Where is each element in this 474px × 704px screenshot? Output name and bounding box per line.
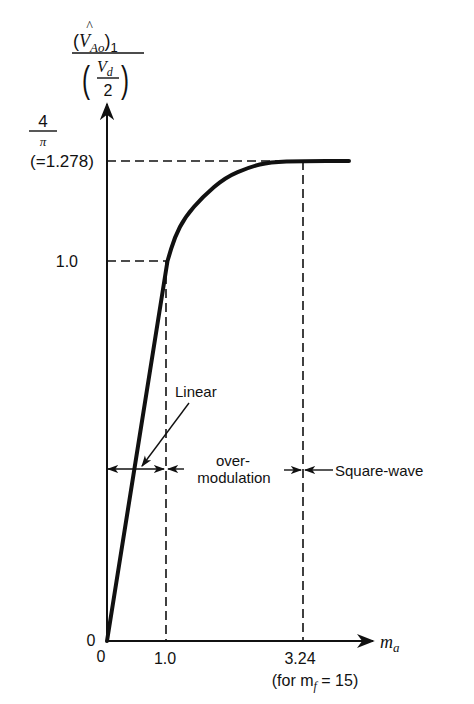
square-wave-region-label: Square-wave xyxy=(335,462,423,479)
x-tick-square-wave: 3.24 xyxy=(284,650,315,667)
x-axis-label: ma xyxy=(380,632,400,655)
pi-label: π xyxy=(40,134,47,149)
y-tick-zero: 0 xyxy=(87,632,96,649)
y-axis-label: ^ (VAo)1 ( Vd 2 ) xyxy=(72,19,144,100)
x-tick-zero: 0 xyxy=(97,648,106,665)
modulation-ratio-chart: ^ (VAo)1 ( Vd 2 ) 4 π (=1.278) 1.0 0 0 1… xyxy=(0,0,474,704)
linear-region-label: Linear xyxy=(175,383,217,400)
overmodulation-label-line2: modulation xyxy=(197,469,270,486)
overmodulation-label-line1: over- xyxy=(216,452,250,469)
denominator-divisor: 2 xyxy=(104,82,113,99)
fundamental-amplitude-curve xyxy=(107,161,349,641)
y-tick-saturation: 4 π (=1.278) xyxy=(29,112,94,171)
linear-pointer-arrow xyxy=(142,403,189,466)
four-label: 4 xyxy=(38,112,47,131)
y-tick-one: 1.0 xyxy=(56,253,78,270)
saturation-value-label: (=1.278) xyxy=(30,152,94,171)
x-tick-one: 1.0 xyxy=(154,650,176,667)
denominator-open-paren: ( xyxy=(82,59,90,101)
y-label-numerator: (VAo)1 xyxy=(73,31,118,55)
x-tick-note: (for mf = 15) xyxy=(272,672,358,693)
denominator-close-paren: ) xyxy=(121,59,129,101)
denominator-symbol: Vd xyxy=(97,58,114,79)
